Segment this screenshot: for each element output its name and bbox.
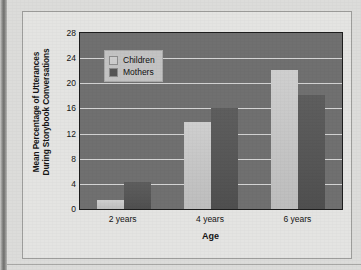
chart-legend: Children Mothers xyxy=(104,50,163,82)
plot-area: 0481216202428 Children Mothers xyxy=(79,32,343,210)
bar-mothers-2-years xyxy=(124,182,151,209)
y-tick-label: 20 xyxy=(67,78,76,88)
page-bottom-rule xyxy=(7,264,361,265)
figure-container: Mean Percentage of Utterances During Sto… xyxy=(22,11,352,259)
legend-item-children: Children xyxy=(109,54,155,66)
y-tick-label: 0 xyxy=(71,204,76,214)
legend-item-mothers: Mothers xyxy=(109,66,155,78)
legend-swatch-children-icon xyxy=(109,56,118,65)
page-surface: Mean Percentage of Utterances During Sto… xyxy=(7,0,361,270)
y-tick-label: 4 xyxy=(71,179,76,189)
y-axis-title: Mean Percentage of Utterances During Sto… xyxy=(30,26,52,198)
y-tick-label: 24 xyxy=(67,53,76,63)
gridline xyxy=(80,83,342,84)
x-tick-label: 4 years xyxy=(166,214,253,224)
scan-gutter-shadow xyxy=(0,0,7,270)
y-axis-title-line-2: During Storybook Conversations xyxy=(41,49,51,176)
bar-mothers-6-years xyxy=(298,95,325,209)
bar-chart: Mean Percentage of Utterances During Sto… xyxy=(23,12,353,260)
x-tick-label: 6 years xyxy=(254,214,341,224)
bar-children-6-years xyxy=(271,70,298,209)
y-axis-title-line-1: Mean Percentage of Utterances xyxy=(31,52,41,173)
x-axis-title: Age xyxy=(78,231,343,241)
legend-swatch-mothers-icon xyxy=(109,68,118,77)
y-tick-label: 8 xyxy=(71,154,76,164)
y-tick-label: 12 xyxy=(67,129,76,139)
legend-label-children: Children xyxy=(123,55,155,65)
y-tick-label: 28 xyxy=(67,28,76,38)
bar-mothers-4-years xyxy=(211,108,238,209)
legend-label-mothers: Mothers xyxy=(123,67,154,77)
bar-children-4-years xyxy=(184,122,211,209)
x-tick-label: 2 years xyxy=(79,214,166,224)
bar-children-2-years xyxy=(97,200,124,209)
y-tick-label: 16 xyxy=(67,103,76,113)
